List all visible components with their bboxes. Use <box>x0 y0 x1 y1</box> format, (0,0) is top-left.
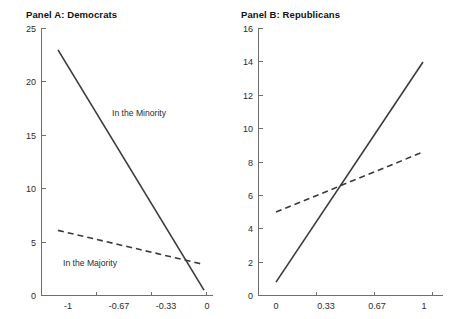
panel-b-y-tick-label-4: 4 <box>248 224 253 234</box>
panel-b-x-tick-label-033: 0.33 <box>317 301 335 311</box>
panel-a-annotation-majority: In the Majority <box>63 258 118 268</box>
panel-a-x-tick-label-neg1: -1 <box>64 301 72 311</box>
panel-a-x-ticks <box>42 292 207 296</box>
panel-b-y-tick-label-10: 10 <box>243 124 253 134</box>
panel-a-annotation-minority: In the Minority <box>112 108 167 118</box>
panel-a-democrats: Panel A: Democrats 0 5 10 15 20 25 <box>0 0 228 319</box>
panel-a-y-tick-label-15: 15 <box>26 131 36 141</box>
panel-a-x-tick-label-neg033: -0.33 <box>156 301 177 311</box>
panel-a-series-in-the-minority <box>58 50 204 290</box>
panel-b-series-in-the-majority <box>276 152 423 212</box>
panel-b-y-tick-label-8: 8 <box>248 158 253 168</box>
panel-b-y-ticks <box>259 29 263 296</box>
two-panel-line-chart-figure: Panel A: Democrats 0 5 10 15 20 25 <box>0 0 457 319</box>
panel-a-y-tick-label-10: 10 <box>26 184 36 194</box>
panel-b-y-tick-label-14: 14 <box>243 57 253 67</box>
panel-b-republicans: Panel B: Republicans 0 2 4 6 <box>228 0 456 319</box>
panel-a-y-tick-label-20: 20 <box>26 77 36 87</box>
panel-b-y-tick-label-0: 0 <box>248 291 253 301</box>
panel-b-series-in-the-minority <box>276 62 423 282</box>
panel-a-y-tick-label-25: 25 <box>26 24 36 34</box>
panel-a-x-tick-label-0: 0 <box>204 301 209 311</box>
panel-b-x-tick-label-1: 1 <box>421 301 426 311</box>
panel-b-x-ticks <box>259 292 433 296</box>
panel-a-plot: 0 5 10 15 20 25 -1 -0.67 -0.33 0 In <box>0 0 228 319</box>
panel-b-plot: 0 2 4 6 8 10 12 14 16 0 0.33 0.67 1 <box>228 0 457 319</box>
panel-b-x-tick-label-067: 0.67 <box>368 301 386 311</box>
panel-a-y-ticks <box>42 29 46 296</box>
panel-a-y-tick-label-5: 5 <box>31 238 36 248</box>
panel-b-y-tick-label-16: 16 <box>243 24 253 34</box>
panel-b-y-tick-label-12: 12 <box>243 91 253 101</box>
panel-b-x-tick-label-0: 0 <box>273 301 278 311</box>
panel-a-y-tick-label-0: 0 <box>31 291 36 301</box>
panel-b-y-tick-label-2: 2 <box>248 258 253 268</box>
panel-a-x-tick-label-neg067: -0.67 <box>109 301 130 311</box>
panel-b-y-tick-label-6: 6 <box>248 191 253 201</box>
